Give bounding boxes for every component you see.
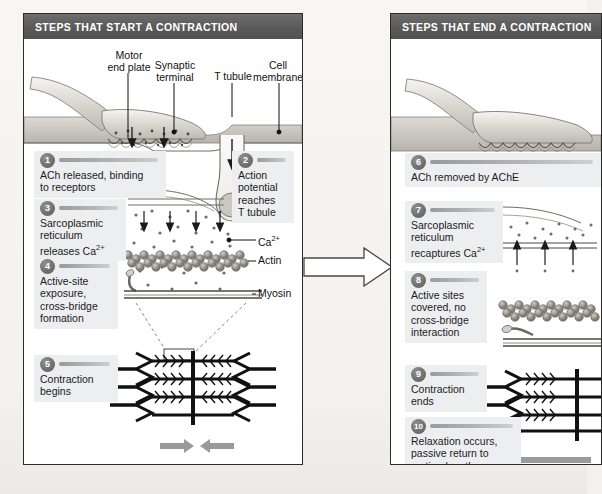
step-3-head: 3 <box>40 201 120 216</box>
step-7-rule <box>430 208 495 212</box>
step-5-badge: 5 <box>40 357 55 372</box>
step-3-text: Sarcoplasmic reticulum releases Ca2+ <box>40 216 120 257</box>
step-3: 3 Sarcoplasmic reticulum releases Ca2+ <box>34 199 126 261</box>
step-1: 1 ACh released, binding to receptors <box>34 151 166 198</box>
panel-left-body: Motor end plate Synaptic terminal T tubu… <box>24 39 302 464</box>
step-10: 10 Relaxation occurs, passive return to … <box>405 417 521 465</box>
step-1-head: 1 <box>40 153 160 168</box>
step-10-text: Relaxation occurs, passive return to res… <box>411 434 515 465</box>
step-6-head: 6 <box>411 155 595 170</box>
step-4: 4 Active-site exposure, cross-bridge for… <box>34 257 118 329</box>
panel-right-body: 6 ACh removed by AChE 7 Sarcoplasmic ret… <box>391 39 601 464</box>
panel-right-title: STEPS THAT END A CONTRACTION <box>391 14 601 39</box>
label-myosin: Myosin <box>258 287 303 299</box>
step-4-badge: 4 <box>40 259 55 274</box>
step-6-badge: 6 <box>411 155 426 170</box>
step-7-head: 7 <box>411 203 497 218</box>
panel-end-contraction: STEPS THAT END A CONTRACTION <box>390 13 602 465</box>
step-1-rule <box>59 158 158 162</box>
step-2-rule <box>257 158 286 162</box>
label-cell-membrane: Cell membrane <box>252 59 303 83</box>
step-7: 7 Sarcoplasmic reticulum recaptures Ca2+ <box>405 201 503 263</box>
step-3-badge: 3 <box>40 201 55 216</box>
step-9: 9 Contraction ends <box>405 365 487 412</box>
step-8-head: 8 <box>411 273 481 288</box>
step-6-text: ACh removed by AChE <box>411 170 595 183</box>
step-1-badge: 1 <box>40 153 55 168</box>
step-10-badge: 10 <box>411 419 426 434</box>
step-2-head: 2 <box>238 153 288 168</box>
step-5-head: 5 <box>40 357 112 372</box>
step-7-badge: 7 <box>411 203 426 218</box>
step-9-badge: 9 <box>411 367 426 382</box>
step-9-text: Contraction ends <box>411 382 481 408</box>
step-5-rule <box>59 362 110 366</box>
step-8-text: Active sites covered, no cross-bridge in… <box>411 288 481 339</box>
step-5: 5 Contraction begins <box>34 355 118 402</box>
transition-arrow-icon <box>302 245 394 289</box>
step-5-text: Contraction begins <box>40 372 112 398</box>
label-calcium-ion: Ca2+ <box>258 233 303 248</box>
panel-start-contraction: STEPS THAT START A CONTRACTION <box>23 13 303 465</box>
step-6-rule <box>430 160 593 164</box>
step-9-head: 9 <box>411 367 481 382</box>
step-10-rule <box>430 424 513 428</box>
step-8: 8 Active sites covered, no cross-bridge … <box>405 271 487 343</box>
step-4-rule <box>59 264 110 268</box>
step-8-badge: 8 <box>411 273 426 288</box>
step-10-head: 10 <box>411 419 515 434</box>
step-8-rule <box>430 278 479 282</box>
label-actin: Actin <box>258 254 303 266</box>
step-2-badge: 2 <box>238 153 253 168</box>
step-7-text: Sarcoplasmic reticulum recaptures Ca2+ <box>411 218 497 259</box>
step-6: 6 ACh removed by AChE <box>405 153 601 187</box>
step-4-text: Active-site exposure, cross-bridge forma… <box>40 274 112 325</box>
step-2: 2 Action potential reaches T tubule <box>232 151 294 223</box>
step-4-head: 4 <box>40 259 112 274</box>
step-2-text: Action potential reaches T tubule <box>238 168 288 219</box>
label-synaptic-terminal: Synaptic terminal <box>136 59 214 83</box>
step-9-rule <box>430 372 479 376</box>
panel-left-title: STEPS THAT START A CONTRACTION <box>24 14 302 39</box>
step-1-text: ACh released, binding to receptors <box>40 168 160 194</box>
step-3-rule <box>59 206 118 210</box>
